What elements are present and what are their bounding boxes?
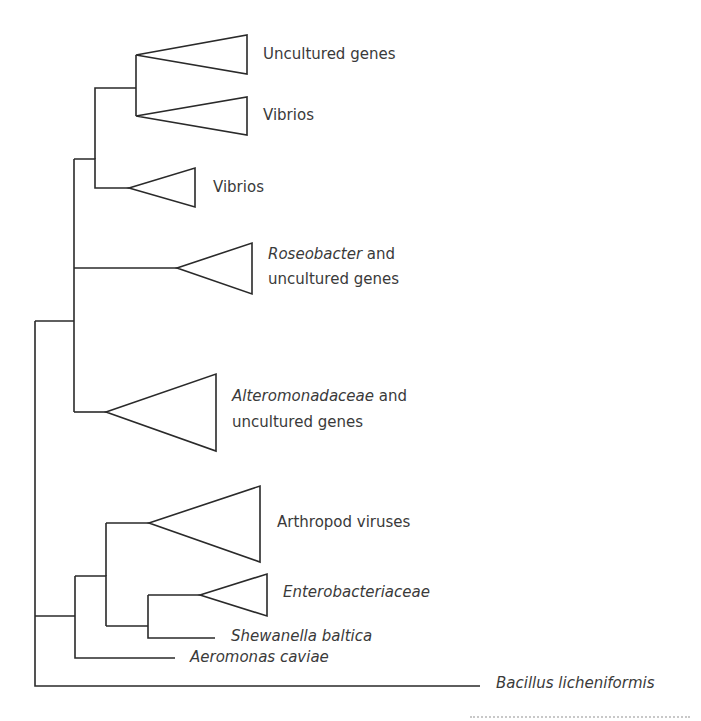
clade-triangle-vibrios-1 (136, 97, 247, 135)
label-arthropod-viruses: Arthropod viruses (277, 510, 410, 535)
label-uncultured-genes: Uncultured genes (263, 42, 395, 67)
label-vibrios-2: Vibrios (213, 175, 264, 200)
label-enterobacteriaceae: Enterobacteriaceae (283, 580, 430, 605)
label-alteromonadaceae-line2: uncultured genes (232, 410, 363, 435)
clade-triangle-roseobacter (177, 243, 252, 294)
clade-triangle-enterobacteriaceae (200, 574, 267, 616)
phylogenetic-tree (0, 0, 701, 721)
enteric-node-branch (75, 576, 106, 626)
clade-triangle-uncultured-genes (136, 35, 247, 74)
label-aeromonas-caviae: Aeromonas caviae (190, 645, 329, 670)
label-roseobacter: Roseobacter and (268, 242, 395, 267)
arthropod-branch (106, 523, 149, 576)
clade-triangle-arthropod-viruses (149, 486, 260, 562)
clade-triangle-vibrios-2 (129, 168, 195, 207)
label-bacillus-licheniformis: Bacillus licheniformis (496, 671, 655, 696)
clade-triangle-alteromonadaceae (106, 374, 216, 451)
label-roseobacter-line2: uncultured genes (268, 267, 399, 292)
lower-clade-backbone (75, 576, 175, 658)
label-vibrios-1: Vibrios (263, 103, 314, 128)
label-alteromonadaceae: Alteromonadaceae and (232, 384, 407, 409)
label-alteromonadaceae-family: Alteromonadaceae (232, 387, 374, 405)
entero-shewanella-node (106, 595, 215, 638)
cropped-caption-text (470, 716, 690, 721)
vibrio-node-branch (74, 159, 129, 188)
label-roseobacter-genus: Roseobacter (268, 245, 362, 263)
vibrio-node-top (95, 88, 136, 159)
